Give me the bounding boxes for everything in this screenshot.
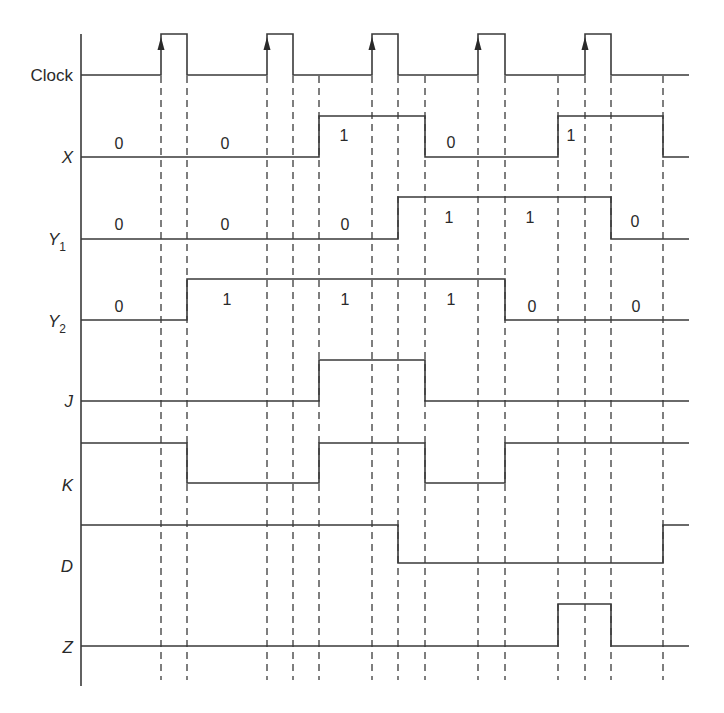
signal-label-k: K bbox=[62, 476, 74, 495]
state-values: 00101000110011100 bbox=[115, 127, 641, 315]
waveform-z bbox=[81, 604, 689, 646]
state-value-y2: 0 bbox=[115, 298, 124, 315]
state-value-x: 0 bbox=[447, 134, 456, 151]
waveform-d bbox=[81, 525, 689, 563]
signal-label-y1: Y1 bbox=[48, 230, 66, 254]
rising-edge-arrow-icon bbox=[475, 37, 482, 50]
signal-label-clock: Clock bbox=[30, 66, 73, 85]
state-value-y2: 0 bbox=[528, 298, 537, 315]
state-value-x: 1 bbox=[340, 127, 349, 144]
state-value-y1: 0 bbox=[631, 213, 640, 230]
state-value-x: 1 bbox=[567, 127, 576, 144]
state-value-y2: 1 bbox=[341, 291, 350, 308]
state-value-y1: 0 bbox=[221, 216, 230, 233]
rising-edge-arrow-icon bbox=[582, 37, 589, 50]
state-value-y1: 0 bbox=[115, 216, 124, 233]
state-value-x: 0 bbox=[115, 135, 124, 152]
state-value-y2: 1 bbox=[447, 291, 456, 308]
signal-label-y2: Y2 bbox=[48, 312, 66, 336]
state-value-y2: 1 bbox=[223, 291, 232, 308]
waveform-y1 bbox=[81, 197, 689, 239]
state-value-y1: 1 bbox=[526, 209, 535, 226]
waveform-y2 bbox=[81, 279, 689, 320]
waveform-x bbox=[81, 116, 689, 157]
signal-label-z: Z bbox=[62, 638, 74, 657]
timing-diagram: ClockXY1Y2JKDZ 00101000110011100 bbox=[0, 0, 724, 713]
waveform-j bbox=[81, 360, 689, 401]
signal-label-d: D bbox=[61, 557, 73, 576]
waveform-clock bbox=[81, 34, 689, 75]
signal-label-j: J bbox=[64, 392, 74, 411]
waveforms bbox=[81, 34, 689, 646]
state-value-y2: 0 bbox=[632, 298, 641, 315]
signal-label-x: X bbox=[61, 148, 74, 167]
rising-edge-arrow-icon bbox=[264, 37, 271, 50]
rising-edge-arrow-icon bbox=[369, 37, 376, 50]
state-value-y1: 1 bbox=[445, 209, 454, 226]
state-value-x: 0 bbox=[221, 135, 230, 152]
rising-edge-arrow-icon bbox=[158, 37, 165, 50]
state-value-y1: 0 bbox=[341, 216, 350, 233]
dashed-guide-lines bbox=[161, 76, 663, 680]
waveform-k bbox=[81, 443, 689, 483]
signal-labels: ClockXY1Y2JKDZ bbox=[30, 66, 73, 657]
clock-edge-arrows bbox=[158, 37, 589, 50]
